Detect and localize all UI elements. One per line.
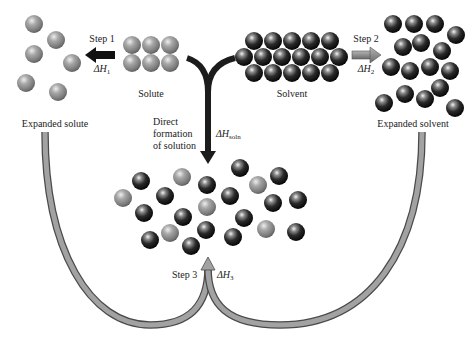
- enthalpy-of-solution-diagram: Step 1 ΔH1 Step 2 ΔH2 Solute Solvent Exp…: [0, 0, 476, 338]
- solvent-particle: [235, 48, 253, 66]
- solute-particle: [161, 54, 179, 72]
- solute-particle: [257, 220, 275, 238]
- solvent-particle: [245, 64, 263, 82]
- solvent-particle: [416, 90, 434, 108]
- solute-particle: [47, 31, 65, 49]
- solvent-particles: [235, 32, 348, 82]
- solvent-particle: [401, 62, 419, 80]
- delta-h2-symbol: ΔH: [358, 63, 371, 74]
- solvent-particle: [224, 228, 242, 246]
- solvent-particle: [292, 48, 310, 66]
- solvent-particle: [156, 187, 174, 205]
- step2-arrow: [352, 47, 381, 63]
- delta-h-soln-subscript: soln: [229, 133, 241, 141]
- solvent-particle: [231, 159, 249, 177]
- solute-particle: [142, 54, 160, 72]
- solute-particle: [123, 36, 141, 54]
- step2-label: Step 2: [353, 33, 378, 45]
- direct-formation-line2: formation: [153, 128, 192, 140]
- solvent-particle: [221, 187, 239, 205]
- solvent-particle: [405, 15, 423, 33]
- solvent-particle: [235, 209, 253, 227]
- expanded-solute-particles: [17, 15, 81, 101]
- solvent-particle: [321, 64, 339, 82]
- solvent-particle: [384, 15, 402, 33]
- solvent-particle: [135, 204, 153, 222]
- delta-h-soln-label: ΔHsoln: [216, 128, 241, 143]
- solute-particle: [161, 36, 179, 54]
- solvent-particle: [431, 79, 449, 97]
- solvent-label: Solvent: [277, 88, 308, 100]
- delta-h1-symbol: ΔH: [94, 63, 107, 74]
- solute-particle: [123, 54, 141, 72]
- step1-label: Step 1: [89, 33, 114, 45]
- solute-particle: [198, 198, 216, 216]
- diagram-canvas: [0, 0, 476, 338]
- step3-label: Step 3: [172, 269, 197, 281]
- solvent-particle: [311, 48, 329, 66]
- direct-formation-line3: of solution: [153, 140, 196, 152]
- solvent-particle: [302, 32, 320, 50]
- solute-particle: [249, 176, 267, 194]
- solvent-particle: [132, 172, 150, 190]
- solute-particle: [25, 15, 43, 33]
- solute-particle: [49, 83, 67, 101]
- delta-h-soln-symbol: ΔH: [216, 128, 229, 139]
- solute-particle: [25, 45, 43, 63]
- expanded-solute-label: Expanded solute: [22, 118, 88, 130]
- delta-h3-symbol: ΔH: [217, 269, 230, 280]
- solvent-particle: [446, 99, 464, 117]
- solvent-particle: [421, 58, 439, 76]
- solute-particles: [123, 36, 179, 72]
- solvent-particle: [270, 167, 288, 185]
- solvent-particle: [426, 15, 444, 33]
- solvent-particle: [283, 32, 301, 50]
- delta-h1-label: ΔH1: [94, 63, 111, 78]
- solution-particles: [114, 159, 307, 255]
- solvent-particle: [287, 223, 305, 241]
- delta-h1-subscript: 1: [107, 68, 111, 76]
- solvent-particle: [441, 62, 459, 80]
- solvent-particle: [264, 32, 282, 50]
- solvent-particle: [394, 38, 412, 56]
- solvent-particle: [264, 64, 282, 82]
- solute-particle: [114, 189, 132, 207]
- solvent-particle: [283, 64, 301, 82]
- solute-particle: [63, 54, 81, 72]
- step1-arrow: [85, 47, 115, 63]
- solvent-particle: [197, 221, 215, 239]
- delta-h2-label: ΔH2: [358, 63, 375, 78]
- solvent-particle: [245, 32, 263, 50]
- solvent-particle: [141, 231, 159, 249]
- solvent-particle: [273, 48, 291, 66]
- solvent-particle: [182, 237, 200, 255]
- solvent-particle: [433, 42, 451, 60]
- delta-h3-subscript: 3: [230, 274, 234, 282]
- solvent-particle: [264, 194, 282, 212]
- solvent-particle: [447, 26, 465, 44]
- solvent-particle: [382, 58, 400, 76]
- solute-particle: [142, 36, 160, 54]
- solute-particle: [161, 224, 179, 242]
- solvent-particle: [412, 34, 430, 52]
- solvent-particle: [289, 191, 307, 209]
- solvent-particle: [396, 85, 414, 103]
- expanded-solvent-label: Expanded solvent: [377, 118, 448, 130]
- solvent-particle: [375, 94, 393, 112]
- direct-formation-line1: Direct: [153, 116, 178, 128]
- solute-particle: [173, 168, 191, 186]
- solvent-particle: [330, 48, 348, 66]
- delta-h2-subscript: 2: [371, 68, 375, 76]
- solute-label: Solute: [138, 88, 164, 100]
- solvent-particle: [254, 48, 272, 66]
- solvent-particle: [174, 208, 192, 226]
- solvent-particle: [321, 32, 339, 50]
- expanded-solvent-particles: [375, 15, 465, 117]
- solvent-particle: [198, 176, 216, 194]
- delta-h3-label: ΔH3: [217, 269, 234, 284]
- solute-particle: [17, 74, 35, 92]
- solvent-particle: [302, 64, 320, 82]
